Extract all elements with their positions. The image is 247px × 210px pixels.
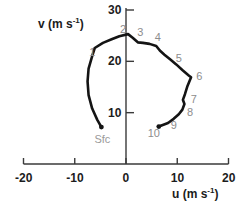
point-label-2: 2 [120,24,126,35]
y-tick-label-30: 30 [108,4,121,16]
x-tick-label-0: 0 [123,172,130,184]
y-axis-title: v (m s-1) [38,18,84,30]
x-tick-label--20: -20 [15,172,32,184]
x-tick-label-10: 10 [171,172,184,184]
point-label-7: 7 [191,94,197,105]
point-label-9: 9 [171,120,177,131]
y-tick-label-10: 10 [108,107,121,119]
point-label-10: 10 [148,128,160,139]
hodograph-curve-group [88,34,192,129]
point-label-8: 8 [187,107,193,118]
point-label-4: 4 [155,32,161,43]
superscript: -1 [207,186,214,195]
hodograph-line-hodograph [88,34,192,127]
y-tick-label-20: 20 [108,55,121,67]
hodograph-figure: -20-100102010203012345678910Sfc v (m s-1… [0,0,247,210]
point-label-5: 5 [176,53,182,64]
point-label-6: 6 [196,71,202,82]
x-axis-title: u (m s-1) [172,188,218,200]
annotation-sfc: Sfc [94,134,110,145]
x-tick-label--10: -10 [66,172,83,184]
point-label-1: 1 [89,47,95,58]
sfc-endpoint-dot [99,125,104,130]
superscript: -1 [73,16,80,25]
x-tick-label-20: 20 [222,172,235,184]
point-label-3: 3 [137,27,143,38]
